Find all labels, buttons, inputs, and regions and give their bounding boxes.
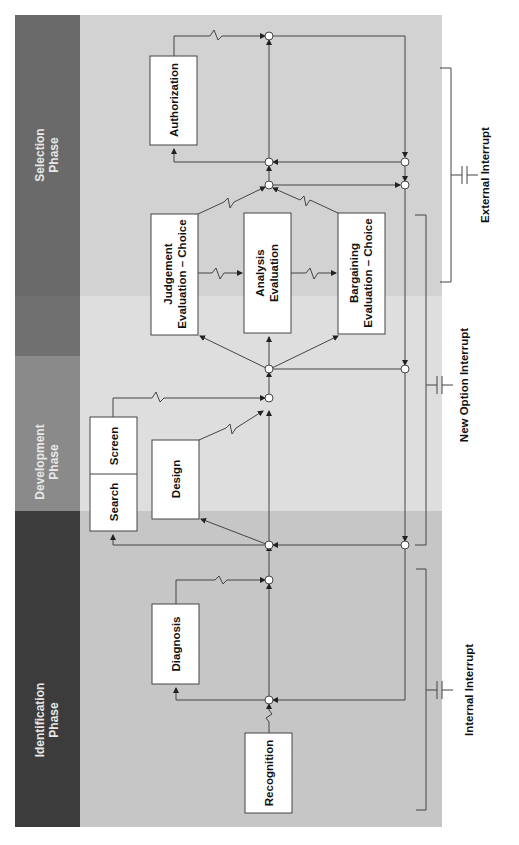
bargaining-box: Bargaining Evaluation – Choice <box>338 213 385 334</box>
development-phase-label-2: Phase <box>47 444 61 480</box>
svg-text:Internal Interrupt: Internal Interrupt <box>463 644 475 736</box>
svg-text:Authorization: Authorization <box>168 63 180 137</box>
svg-text:Search: Search <box>108 483 120 521</box>
svg-text:Design: Design <box>170 460 182 498</box>
selection-phase-label-2: Phase <box>47 137 61 173</box>
identification-phase-band <box>15 511 80 827</box>
external-interrupt-bracket: External Interrupt <box>440 68 491 282</box>
svg-text:Recognition: Recognition <box>263 740 275 806</box>
svg-text:New Option Interrupt: New Option Interrupt <box>458 328 470 443</box>
svg-text:Evaluation – Choice: Evaluation – Choice <box>176 219 188 328</box>
selection-phase-label: Selection <box>33 128 47 181</box>
svg-text:Evaluation: Evaluation <box>268 244 280 302</box>
analysis-box: Analysis Evaluation <box>244 213 291 333</box>
svg-text:Analysis: Analysis <box>254 249 266 296</box>
recognition-box: Recognition <box>245 733 292 813</box>
development-phase-band <box>15 356 80 511</box>
development-phase-band <box>15 296 80 356</box>
development-phase-label: Development <box>33 424 47 499</box>
svg-text:Diagnosis: Diagnosis <box>170 617 182 672</box>
search-screen-box: Search Screen <box>90 417 137 531</box>
judgement-box: Judgement Evaluation – Choice <box>151 214 198 335</box>
svg-text:Evaluation – Choice: Evaluation – Choice <box>362 218 374 327</box>
svg-text:Screen: Screen <box>108 427 120 465</box>
identification-phase-label-2: Phase <box>47 702 61 738</box>
design-box: Design <box>152 440 199 519</box>
authorization-box: Authorization <box>150 56 197 145</box>
svg-text:External Interrupt: External Interrupt <box>479 127 491 223</box>
decision-process-diagram: Selection Phase Development Phase Identi… <box>0 0 519 845</box>
svg-text:Bargaining: Bargaining <box>348 243 360 303</box>
svg-text:Judgement: Judgement <box>162 243 174 305</box>
diagnosis-box: Diagnosis <box>152 604 199 684</box>
identification-phase-label: Identification <box>33 683 47 758</box>
